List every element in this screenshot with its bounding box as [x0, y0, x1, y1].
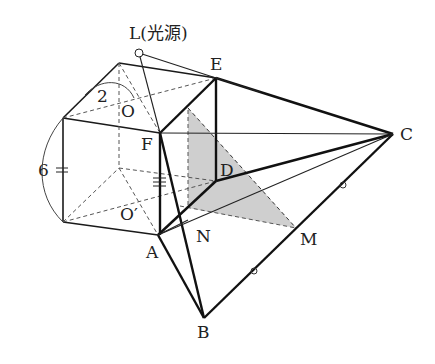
label-O-prime: O′ [120, 206, 138, 223]
label-N: N [196, 228, 211, 245]
label-E: E [210, 56, 222, 73]
light-source-icon [135, 49, 143, 57]
label-L: L(光源) [129, 25, 188, 42]
label-F: F [141, 136, 153, 153]
label-M: M [300, 231, 317, 248]
label-A: A [146, 244, 158, 261]
label-O: O [121, 103, 135, 120]
label-dim-top: 2 [97, 88, 108, 105]
label-D: D [220, 162, 234, 179]
label-dim-height: 6 [38, 162, 49, 179]
label-B: B [197, 324, 210, 341]
label-C: C [400, 126, 413, 143]
geometry-figure: L(光源) E 2 O F C D 6 O′ A N M B [0, 0, 435, 364]
